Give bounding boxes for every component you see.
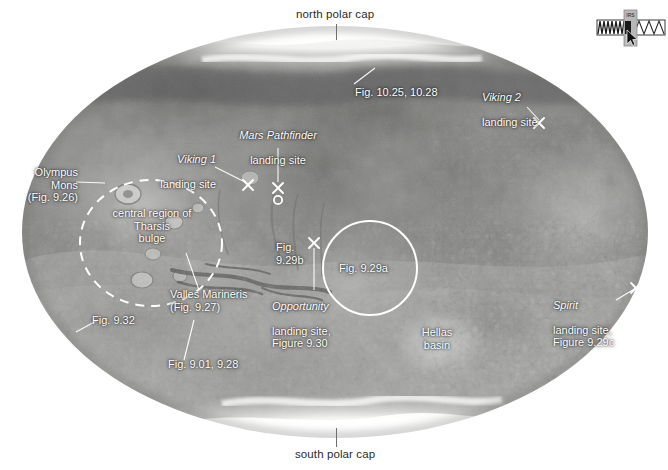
caption-south-polar-cap: south polar cap [295, 448, 375, 461]
mars-map-figure: Olympus Mons (Fig. 9.26) central region … [0, 0, 668, 470]
label-viking1-name: Viking 1 [177, 153, 216, 165]
label-spirit-landing-site[interactable]: Spirit landing site, Figure 9.29c [553, 286, 637, 349]
label-fig-9-01-9-28[interactable]: Fig. 9.01, 9.28 [168, 358, 238, 371]
label-fig-10-25-10-28[interactable]: Fig. 10.25, 10.28 [355, 86, 438, 99]
corner-waveform-widget[interactable]: IRS [596, 6, 666, 50]
label-viking1-rest: landing site [160, 178, 216, 190]
label-olympus-mons[interactable]: Olympus Mons (Fig. 9.26) [6, 166, 78, 204]
waveform-tab-label: IRS [626, 12, 635, 18]
label-opportunity-rest: landing site, Figure 9.30 [272, 325, 331, 350]
label-pathfinder-landing-site[interactable]: Mars Pathfinder landing site [216, 116, 340, 166]
label-fig-9-32[interactable]: Fig. 9.32 [92, 314, 135, 327]
label-opportunity-landing-site[interactable]: Opportunity landing site, Figure 9.30 [272, 287, 354, 350]
label-viking2-name: Viking 2 [482, 91, 521, 103]
label-viking1-landing-site[interactable]: Viking 1 landing site [130, 140, 216, 190]
label-fig-9-29b[interactable]: Fig. 9.29b [276, 241, 316, 266]
label-spirit-name: Spirit [553, 299, 578, 311]
label-pathfinder-rest: landing site [250, 154, 306, 166]
label-fig-9-29a[interactable]: Fig. 9.29a [339, 262, 388, 275]
label-viking2-landing-site[interactable]: Viking 2 landing site [482, 78, 556, 128]
label-hellas-basin[interactable]: Hellas basin [408, 326, 466, 351]
label-valles-marineris[interactable]: Valles Marineris (Fig. 9.27) [170, 288, 266, 313]
label-pathfinder-name: Mars Pathfinder [239, 129, 317, 141]
label-tharsis-bulge[interactable]: central region of Tharsis bulge [100, 207, 204, 245]
label-viking2-rest: landing site [482, 116, 538, 128]
caption-north-leader-line [336, 24, 337, 40]
label-spirit-rest: landing site, Figure 9.29c [553, 324, 614, 349]
caption-south-leader-line [336, 428, 337, 447]
caption-north-polar-cap: north polar cap [296, 8, 374, 21]
label-opportunity-name: Opportunity [272, 300, 329, 312]
